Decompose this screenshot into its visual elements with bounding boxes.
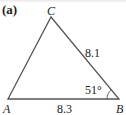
triangle-diagram bbox=[0, 0, 126, 115]
side-bc-label: 8.1 bbox=[85, 47, 100, 59]
vertex-label-a: A bbox=[3, 103, 10, 115]
angle-b-arc bbox=[107, 90, 111, 99]
angle-b-label: 51° bbox=[85, 84, 102, 96]
vertex-label-b: B bbox=[116, 103, 123, 115]
side-ab-label: 8.3 bbox=[57, 103, 72, 115]
part-label: (a) bbox=[2, 4, 17, 16]
triangle-abc bbox=[8, 17, 119, 99]
vertex-label-c: C bbox=[47, 5, 55, 17]
